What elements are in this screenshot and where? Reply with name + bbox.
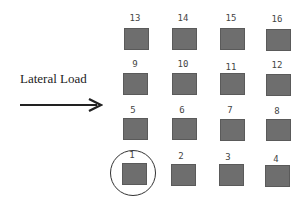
pile-label: 14 bbox=[170, 13, 196, 23]
lateral-load-arrow-icon bbox=[19, 97, 103, 113]
pile bbox=[123, 118, 148, 140]
pile-label: 7 bbox=[217, 105, 243, 115]
pile bbox=[172, 118, 197, 140]
pile bbox=[266, 119, 291, 141]
pile-label: 5 bbox=[120, 105, 146, 115]
pile bbox=[172, 28, 197, 50]
pile-label: 15 bbox=[218, 13, 244, 23]
pile-label: 6 bbox=[169, 105, 195, 115]
pile bbox=[171, 164, 196, 186]
pile-label: 16 bbox=[264, 14, 290, 24]
pile bbox=[266, 74, 291, 96]
pile-label: 9 bbox=[122, 59, 148, 69]
pile-label: 13 bbox=[122, 13, 148, 23]
highlight-circle bbox=[110, 150, 156, 196]
pile bbox=[265, 165, 290, 187]
pile-label: 2 bbox=[168, 151, 194, 161]
pile-label: 8 bbox=[264, 106, 290, 116]
pile bbox=[266, 29, 291, 51]
pile-label: 11 bbox=[218, 62, 244, 72]
pile-label: 4 bbox=[263, 154, 289, 164]
pile bbox=[220, 28, 245, 50]
pile bbox=[219, 164, 244, 186]
pile-label: 12 bbox=[264, 60, 290, 70]
pile bbox=[123, 73, 148, 95]
pile bbox=[220, 119, 245, 141]
pile bbox=[220, 73, 245, 95]
pile-label: 3 bbox=[215, 152, 241, 162]
pile-label: 10 bbox=[170, 59, 196, 69]
lateral-load-label: Lateral Load bbox=[20, 71, 87, 87]
pile bbox=[124, 28, 149, 50]
pile bbox=[172, 73, 197, 95]
